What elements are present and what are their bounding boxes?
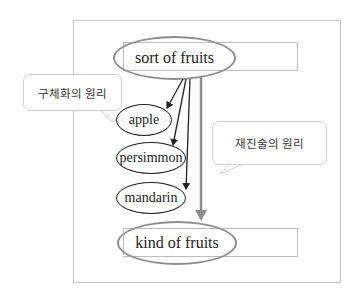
child-node-persimmon: persimmon (116, 142, 186, 174)
child-node-label: persimmon (120, 150, 183, 166)
child-node-mandarin: mandarin (116, 182, 186, 214)
child-node-label: apple (129, 112, 159, 128)
callout-label: 구체화의 원리 (38, 85, 108, 101)
arrow-to-mandarin (186, 79, 190, 189)
callout-concretization: 구체화의 원리 (23, 74, 122, 111)
callout-restatement: 재진술의 원리 (212, 121, 327, 165)
child-node-apple: apple (116, 104, 172, 136)
child-node-label: mandarin (125, 190, 178, 206)
right-callout-tail (220, 164, 243, 174)
arrow-to-persimmon (173, 79, 186, 145)
callout-label: 재진술의 원리 (235, 135, 305, 151)
